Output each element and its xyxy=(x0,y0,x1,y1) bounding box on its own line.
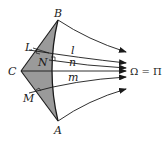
label-point-l: L xyxy=(24,41,32,54)
ray-from-b xyxy=(58,20,126,52)
hyperbolic-diagram: B A C L N M l n m Ω = Π xyxy=(0,0,165,141)
label-point-b: B xyxy=(53,7,62,20)
label-point-a: A xyxy=(53,124,62,137)
label-point-n: N xyxy=(37,56,48,69)
label-line-m: m xyxy=(68,71,78,84)
ray-n xyxy=(49,60,126,68)
label-limit-point: Ω = Π xyxy=(130,66,162,77)
ray-from-a xyxy=(58,89,126,121)
label-point-c: C xyxy=(8,65,17,78)
label-line-n: n xyxy=(69,56,76,69)
label-point-m: M xyxy=(22,92,35,105)
